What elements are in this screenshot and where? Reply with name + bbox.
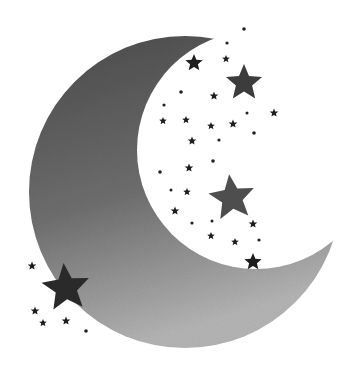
moon-and-stars-graphic <box>0 0 348 373</box>
moon-illustration <box>0 0 348 373</box>
star-dot-icon <box>211 220 214 223</box>
star-dot-icon <box>211 159 215 163</box>
small-star-icon <box>28 262 37 270</box>
star-dot-icon <box>217 138 220 141</box>
star-dot-icon <box>179 90 183 94</box>
star-dot-icon <box>225 41 228 44</box>
star-dot-icon <box>162 103 165 106</box>
star-dot-icon <box>252 131 256 135</box>
star-dot-icon <box>246 112 249 115</box>
star-dot-icon <box>257 238 260 241</box>
small-star-icon <box>62 317 71 325</box>
small-star-icon <box>39 319 47 326</box>
star-dot-icon <box>158 170 162 174</box>
star-dot-icon <box>170 189 173 192</box>
small-star-icon <box>31 307 40 315</box>
star-dot-icon <box>84 329 88 333</box>
star-dot-icon <box>242 27 246 31</box>
star-dot-icon <box>190 221 193 224</box>
